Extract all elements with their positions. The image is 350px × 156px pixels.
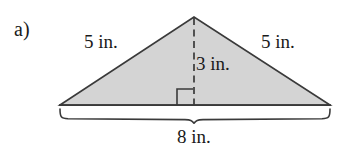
geometry-diagram	[0, 0, 350, 156]
part-label: a)	[14, 19, 30, 39]
base-brace	[60, 109, 330, 123]
left-leg-length-label: 5 in.	[84, 32, 118, 51]
height-length-label: 3 in.	[196, 54, 230, 73]
figure-canvas: a) 5 in. 5 in. 3 in. 8 in.	[0, 0, 350, 156]
right-leg-length-label: 5 in.	[261, 32, 295, 51]
base-length-label: 8 in.	[177, 127, 211, 146]
